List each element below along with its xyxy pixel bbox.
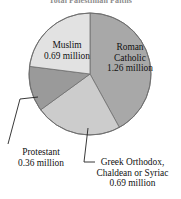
slice-label-roman-catholic-line2: Catholic (99, 53, 161, 64)
slice-label-greek-orthodox-line2: Chaldean or Syriac (84, 168, 181, 179)
slice-label-muslim: Muslim 0.69 million (30, 40, 104, 61)
slice-label-roman-catholic-value: 1.26 million (99, 63, 161, 74)
pie-slices-group (29, 13, 151, 135)
slice-label-roman-catholic: Roman Catholic 1.26 million (99, 42, 161, 74)
slice-label-protestant: Protestant 0.36 million (0, 147, 83, 168)
slice-label-muslim-name: Muslim (30, 40, 104, 51)
pie-chart-figure: Total Palestinian Faiths Muslim 0.69 mil… (0, 0, 181, 199)
slice-label-roman-catholic-line1: Roman (99, 42, 161, 53)
slice-label-protestant-name: Protestant (0, 147, 83, 158)
slice-label-greek-orthodox-line1: Greek Orthodox, (84, 157, 181, 168)
slice-label-greek-orthodox-value: 0.69 million (84, 178, 181, 189)
slice-label-muslim-value: 0.69 million (30, 51, 104, 62)
slice-label-protestant-value: 0.36 million (0, 158, 83, 169)
leader-line-protestant (8, 97, 38, 144)
slice-label-greek-orthodox: Greek Orthodox, Chaldean or Syriac 0.69 … (84, 157, 181, 189)
